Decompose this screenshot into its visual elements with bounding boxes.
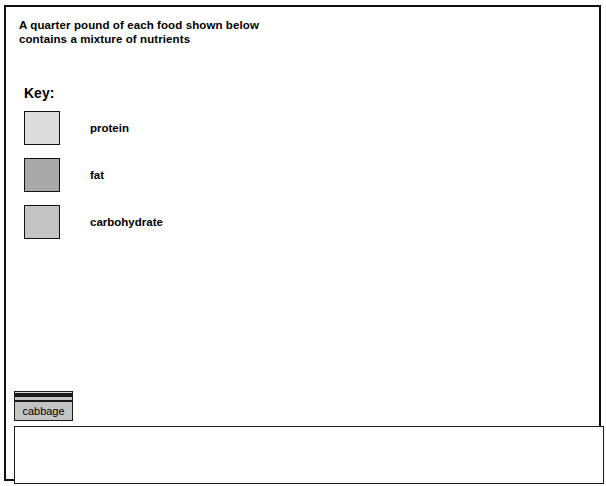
food-illustration-strip bbox=[14, 426, 604, 484]
stacked-bar-plot bbox=[14, 15, 604, 401]
category-label-cabbage: cabbage bbox=[14, 401, 73, 421]
category-label-strip: cabbage bbox=[14, 401, 604, 421]
bar-cabbage bbox=[14, 391, 73, 401]
nutrition-chart-page: A quarter pound of each food shown below… bbox=[0, 0, 606, 486]
chart-frame: A quarter pound of each food shown below… bbox=[4, 5, 601, 481]
